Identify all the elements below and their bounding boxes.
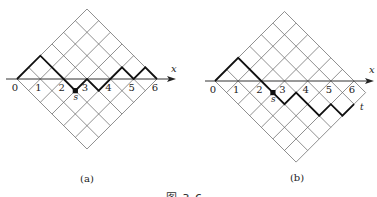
tick-label: 6 xyxy=(152,82,158,93)
point-label-s: s xyxy=(271,94,276,104)
tick-label: 0 xyxy=(12,82,18,93)
x-axis-label-a: x xyxy=(171,63,177,74)
tick-labels-a: 0123456 xyxy=(12,82,158,93)
tick-label: 6 xyxy=(349,84,355,95)
x-axis-label-b: x xyxy=(369,64,375,75)
tick-label: 4 xyxy=(302,84,308,95)
panel-label-a: (a) xyxy=(80,173,94,184)
tick-label: 3 xyxy=(279,84,285,95)
panel-a: x 0123456 s (a) xyxy=(6,9,177,184)
grid-line xyxy=(285,11,366,92)
tick-label: 1 xyxy=(233,84,239,95)
point-label-s: s xyxy=(74,92,79,102)
figure-canvas: x 0123456 s (a) x 0123456 st (b) xyxy=(0,0,377,197)
panel-b: x 0123456 st (b) xyxy=(205,11,375,183)
tick-labels-b: 0123456 xyxy=(210,84,355,95)
tick-label: 2 xyxy=(256,84,262,95)
tick-label: 5 xyxy=(128,82,134,93)
point-label-t: t xyxy=(360,102,364,112)
tick-label: 1 xyxy=(35,82,41,93)
panel-label-b: (b) xyxy=(290,172,304,183)
grid-line xyxy=(227,69,308,150)
marked-points-a: s xyxy=(73,88,79,102)
figure-caption: 图 3.6 xyxy=(166,189,203,197)
tick-label: 5 xyxy=(326,84,332,95)
tick-label: 0 xyxy=(210,84,216,95)
tick-label: 2 xyxy=(58,82,64,93)
